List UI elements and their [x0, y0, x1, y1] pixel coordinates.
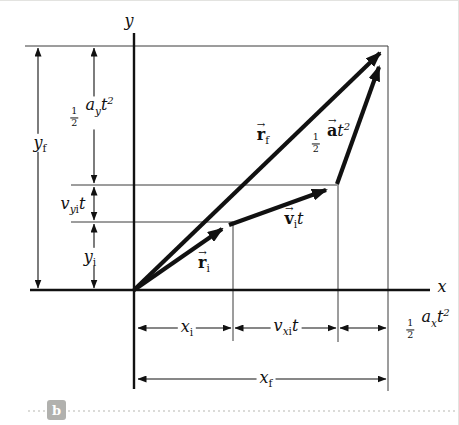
- label-x-i: xi: [178, 318, 196, 336]
- vector-accent-arrow-icon: →: [257, 119, 265, 131]
- label-v-xi-t: vxit: [271, 317, 302, 335]
- label-x-f: xf: [257, 369, 276, 387]
- label-y-i: yi: [81, 248, 99, 266]
- y-axis-label: y: [124, 12, 133, 30]
- x-axis-label: x: [437, 278, 446, 296]
- vector-v-i-t: [229, 190, 326, 225]
- vector-accent-arrow-icon: →: [285, 203, 293, 215]
- vector-accent-arrow-icon: →: [328, 115, 336, 127]
- label-vector-r-i: →ri: [198, 254, 210, 272]
- label-v-yi-t: vyit: [61, 195, 86, 213]
- panel-label-badge: b: [47, 400, 66, 420]
- label-vector-half-a-t2: 12 →at2: [312, 122, 350, 155]
- vector-arrows: [134, 53, 380, 290]
- figure-projectile-position-diagram: y x yf 12 ayt2 vyit yi →ri →vit →rf 12 →…: [0, 0, 459, 425]
- label-y-f: yf: [31, 134, 50, 152]
- vector-accent-arrow-icon: →: [198, 247, 206, 259]
- label-vector-r-f: →rf: [257, 126, 269, 144]
- label-half-ax-t2: 12 axt2: [406, 308, 449, 341]
- label-half-ay-t2: 12 ayt2: [67, 96, 116, 129]
- label-vector-v-i-t: →vit: [284, 210, 303, 228]
